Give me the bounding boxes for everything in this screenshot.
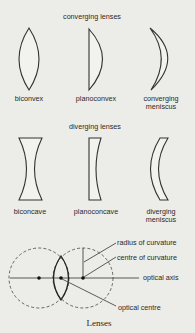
converging-meniscus-lens <box>150 28 168 90</box>
planoconcave-lens <box>89 138 101 200</box>
planoconvex-lens <box>89 29 103 90</box>
converging-title: converging lenses <box>63 12 121 21</box>
figure-caption: Lenses <box>87 318 112 328</box>
converging-meniscus-label-line2: meniscus <box>146 102 177 111</box>
optical-axis-label: optical axis <box>143 273 179 282</box>
left-centre-dot <box>37 276 41 280</box>
centre-of-curvature-label: centre of curvature <box>117 253 177 262</box>
diverging-meniscus-lens <box>151 138 169 200</box>
optical-centre-label: optical centre <box>118 303 161 312</box>
biconcave-label: biconcave <box>14 207 46 216</box>
diverging-title: diverging lenses <box>69 122 121 131</box>
biconvex-label: biconvex <box>15 94 44 103</box>
biconcave-lens <box>19 138 42 200</box>
biconvex-lens <box>19 28 39 90</box>
optical-centre-leader <box>62 279 116 306</box>
planoconvex-label: planoconvex <box>76 94 117 103</box>
lens-diagram: converging lenses biconvex planoconvex c… <box>0 0 195 333</box>
diverging-meniscus-label-line2: meniscus <box>146 215 177 224</box>
radius-leader <box>84 243 116 262</box>
planoconcave-label: planoconcave <box>74 207 118 216</box>
radius-of-curvature-label: radius of curvature <box>117 238 177 247</box>
